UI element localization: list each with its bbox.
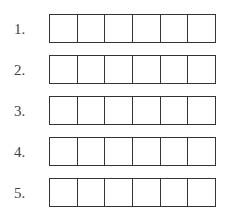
- answer-row-3: 3.: [0, 96, 232, 126]
- letter-box[interactable]: [188, 56, 215, 83]
- letter-box[interactable]: [188, 179, 215, 206]
- letter-box[interactable]: [105, 97, 133, 124]
- letter-box[interactable]: [78, 97, 106, 124]
- answer-row-2: 2.: [0, 55, 232, 85]
- letter-box[interactable]: [133, 56, 161, 83]
- letter-box[interactable]: [50, 56, 78, 83]
- letter-box[interactable]: [161, 56, 189, 83]
- letter-box[interactable]: [161, 138, 189, 165]
- letter-box[interactable]: [188, 138, 215, 165]
- letter-boxes: [49, 14, 216, 43]
- letter-box[interactable]: [50, 138, 78, 165]
- letter-box[interactable]: [78, 56, 106, 83]
- letter-box[interactable]: [105, 15, 133, 42]
- letter-boxes: [49, 137, 216, 166]
- letter-box[interactable]: [105, 56, 133, 83]
- letter-box[interactable]: [133, 138, 161, 165]
- letter-box[interactable]: [50, 15, 78, 42]
- row-number: 3.: [14, 101, 25, 121]
- row-number: 4.: [14, 142, 25, 162]
- letter-boxes: [49, 178, 216, 207]
- letter-box[interactable]: [50, 179, 78, 206]
- letter-box[interactable]: [161, 15, 189, 42]
- letter-boxes: [49, 55, 216, 84]
- row-number: 5.: [14, 183, 25, 203]
- answer-row-5: 5.: [0, 178, 232, 208]
- answer-row-4: 4.: [0, 137, 232, 167]
- letter-box[interactable]: [161, 97, 189, 124]
- row-number: 1.: [14, 19, 25, 39]
- letter-box[interactable]: [133, 179, 161, 206]
- letter-box[interactable]: [133, 15, 161, 42]
- row-number: 2.: [14, 60, 25, 80]
- letter-box[interactable]: [78, 138, 106, 165]
- letter-box[interactable]: [105, 179, 133, 206]
- letter-box[interactable]: [161, 179, 189, 206]
- letter-box[interactable]: [50, 97, 78, 124]
- letter-box[interactable]: [78, 15, 106, 42]
- answer-row-1: 1.: [0, 14, 232, 44]
- letter-box[interactable]: [105, 138, 133, 165]
- letter-box[interactable]: [188, 97, 215, 124]
- letter-box[interactable]: [188, 15, 215, 42]
- letter-box[interactable]: [133, 97, 161, 124]
- letter-box[interactable]: [78, 179, 106, 206]
- letter-boxes: [49, 96, 216, 125]
